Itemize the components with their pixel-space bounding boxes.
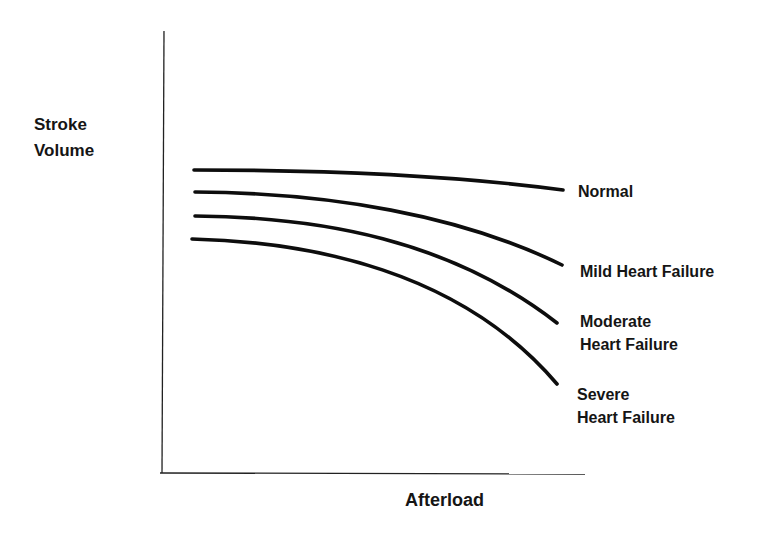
y-axis-label-line1: Stroke — [34, 112, 94, 138]
label-mild-heart-failure: Mild Heart Failure — [580, 260, 714, 283]
x-axis-label: Afterload — [405, 489, 484, 512]
y-axis — [162, 31, 164, 473]
label-moderate-line2: Heart Failure — [580, 333, 678, 356]
label-moderate-heart-failure: ModerateHeart Failure — [580, 310, 678, 356]
y-axis-label: StrokeVolume — [34, 112, 94, 164]
label-severe-line1: Severe — [577, 383, 675, 406]
label-severe-heart-failure: SevereHeart Failure — [577, 383, 675, 429]
label-moderate-line1: Moderate — [580, 310, 678, 333]
label-normal: Normal — [578, 180, 633, 203]
curve-mild-heart-failure — [195, 192, 562, 265]
x-axis — [160, 473, 585, 474]
label-severe-line2: Heart Failure — [577, 406, 675, 429]
curve-severe-heart-failure — [192, 239, 557, 384]
y-axis-label-line2: Volume — [34, 138, 94, 164]
curve-normal — [194, 170, 563, 190]
